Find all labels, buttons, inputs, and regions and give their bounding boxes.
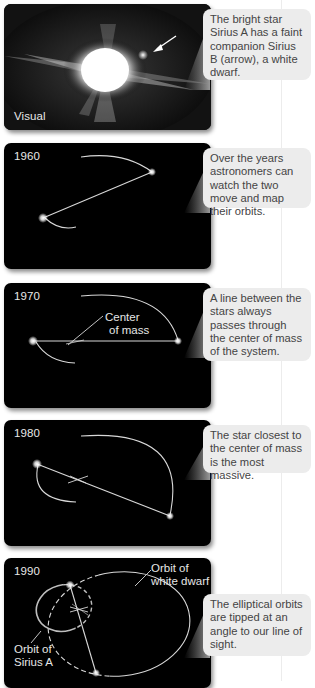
sirius-a-star [32, 459, 42, 469]
sirius-a-orbit-label: Orbit of Sirius A [14, 643, 53, 669]
panel-label: 1980 [14, 427, 40, 439]
panel-label: 1970 [14, 290, 40, 302]
caption-1970: A line between the stars always passes t… [203, 288, 311, 361]
panel-label: 1990 [14, 565, 40, 577]
white-dwarf-orbit-label: Orbit of white dwarf [151, 562, 209, 588]
sirius-a-star [38, 213, 48, 223]
sirius-a-star [66, 581, 75, 590]
sirius-a-star [28, 336, 38, 346]
caption-1960: Over the years astronomers can watch the… [203, 148, 311, 208]
caption-1980: The star closest to the center of mass i… [203, 425, 311, 473]
caption-1990: The elliptical orbits are tipped at an a… [203, 594, 311, 656]
white-dwarf-star [166, 512, 174, 520]
center-of-mass-label: Center of mass [105, 311, 149, 337]
caption-visual: The bright star Sirius A has a faint com… [203, 9, 311, 80]
panel-label: Visual [14, 110, 46, 122]
white-dwarf-star [92, 669, 100, 677]
panel-label: 1960 [14, 150, 40, 162]
sirius-a-orbit [31, 579, 97, 638]
white-dwarf-star [148, 168, 156, 176]
